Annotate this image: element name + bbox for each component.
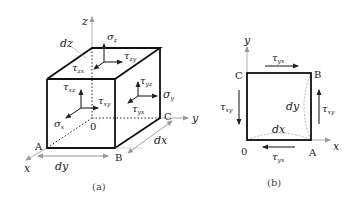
stress-element-diagram: z y x dz dy dx A B C 0 σz <box>0 0 358 201</box>
vertex-B: B <box>115 152 122 163</box>
tau-xy-label: τxy <box>98 95 111 108</box>
sigma-y-label: σy <box>163 88 175 102</box>
tau-yx-arrow <box>128 96 138 103</box>
b-vertex-A: A <box>308 147 317 158</box>
b-dy-label: dy <box>286 100 300 113</box>
b-vertex-C: C <box>235 70 243 81</box>
vertex-A: A <box>34 141 43 152</box>
caption-b: (b) <box>267 177 281 188</box>
tau-zx-arrow <box>94 62 104 69</box>
tau-zy-label: τzy <box>124 50 137 63</box>
sigma-z-label: σz <box>107 31 118 43</box>
sigma-x-arrow <box>66 108 81 118</box>
deformed-right-curve <box>304 73 311 140</box>
tau-yx-bottom-label: τyx <box>272 151 285 164</box>
figure-b: y x C B 0 A dy dx τyx τyx τxy τxy (b) <box>220 34 340 188</box>
dy-label: dy <box>55 160 69 173</box>
x-axis-label: x <box>24 162 31 175</box>
dz-label: dz <box>60 37 73 50</box>
tau-yx-label: τyx <box>132 103 145 116</box>
tau-yx-top-label: τyx <box>272 52 285 65</box>
tau-yz-label: τyz <box>140 75 153 88</box>
z-axis-label: z <box>81 15 88 28</box>
sigma-x-label: σx <box>54 118 65 130</box>
caption-a: (a) <box>92 181 106 192</box>
vertex-origin: 0 <box>90 121 96 132</box>
b-vertex-B: B <box>314 69 321 80</box>
tau-xz-label: τxz <box>63 81 76 93</box>
b-x-axis-label: x <box>333 140 340 153</box>
tau-xy-left-label: τxy <box>220 101 233 114</box>
b-dx-label: dx <box>272 123 286 136</box>
vertex-C: C <box>164 111 172 122</box>
dx-label: dx <box>154 134 168 147</box>
y-axis-label: y <box>191 112 199 125</box>
b-y-axis-label: y <box>243 34 251 47</box>
figure-a: z y x dz dy dx A B C 0 σz <box>24 15 199 192</box>
tau-xy-right-label: τxy <box>322 103 335 116</box>
b-vertex-origin: 0 <box>241 146 247 157</box>
tau-zx-label: τzx <box>72 62 85 74</box>
